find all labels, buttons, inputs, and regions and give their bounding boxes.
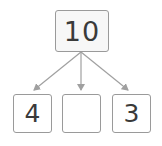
arrow-right (81, 52, 128, 90)
whole-box: 10 (55, 10, 109, 52)
part-value-left: 4 (25, 99, 41, 128)
part-value-right: 3 (124, 99, 140, 128)
part-box-right: 3 (112, 94, 151, 133)
whole-value: 10 (64, 16, 100, 47)
part-box-left: 4 (13, 94, 52, 133)
part-box-middle-empty[interactable] (62, 94, 101, 133)
arrow-left (34, 52, 81, 90)
